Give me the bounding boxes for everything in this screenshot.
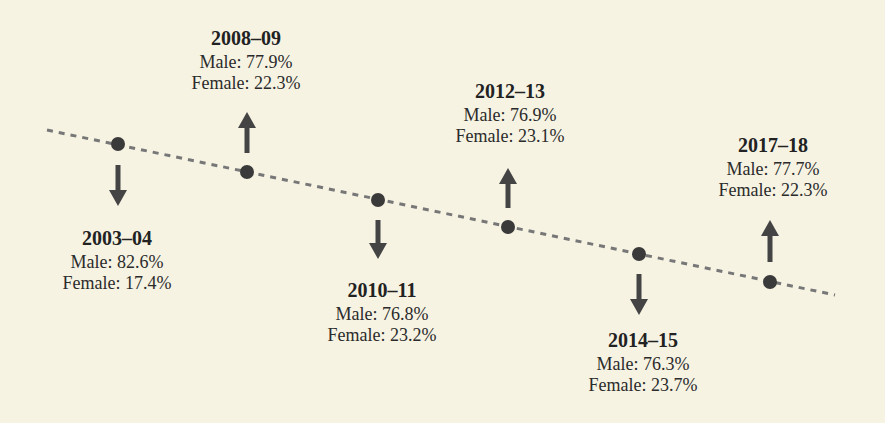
male-share: Male: 77.7% <box>719 159 828 180</box>
data-point-marker <box>501 220 515 234</box>
data-point-marker <box>632 247 646 261</box>
arrow-down-icon <box>630 274 648 315</box>
label-2017-18: 2017–18 Male: 77.7% Female: 22.3% <box>719 135 828 201</box>
data-point-marker <box>111 137 125 151</box>
female-share: Female: 22.3% <box>719 180 828 201</box>
period-label: 2014–15 <box>589 330 698 350</box>
arrow-up-icon <box>499 168 517 208</box>
label-2012-13: 2012–13 Male: 76.9% Female: 23.1% <box>456 81 565 147</box>
label-2003-04: 2003–04 Male: 82.6% Female: 17.4% <box>63 228 172 294</box>
period-label: 2010–11 <box>328 280 437 300</box>
female-share: Female: 23.2% <box>328 325 437 346</box>
male-share: Male: 82.6% <box>63 252 172 273</box>
arrow-down-icon <box>109 165 127 206</box>
period-label: 2008–09 <box>192 28 301 48</box>
arrow-up-icon <box>238 112 256 153</box>
male-share: Male: 77.9% <box>192 52 301 73</box>
male-share: Male: 76.9% <box>456 105 565 126</box>
male-share: Male: 76.8% <box>328 304 437 325</box>
trend-chart <box>0 0 885 423</box>
period-label: 2003–04 <box>63 228 172 248</box>
label-2008-09: 2008–09 Male: 77.9% Female: 22.3% <box>192 28 301 94</box>
gender-ratio-diagram: 2003–04 Male: 82.6% Female: 17.4% 2008–0… <box>0 0 885 423</box>
label-2014-15: 2014–15 Male: 76.3% Female: 23.7% <box>589 330 698 396</box>
data-point-marker <box>371 193 385 207</box>
female-share: Female: 23.1% <box>456 126 565 147</box>
female-share: Female: 17.4% <box>63 273 172 294</box>
data-point-marker <box>240 165 254 179</box>
period-label: 2017–18 <box>719 135 828 155</box>
female-share: Female: 23.7% <box>589 375 698 396</box>
data-point-marker <box>763 275 777 289</box>
arrow-up-icon <box>761 220 779 262</box>
female-share: Female: 22.3% <box>192 73 301 94</box>
male-share: Male: 76.3% <box>589 354 698 375</box>
arrow-down-icon <box>369 220 387 259</box>
label-2010-11: 2010–11 Male: 76.8% Female: 23.2% <box>328 280 437 346</box>
period-label: 2012–13 <box>456 81 565 101</box>
